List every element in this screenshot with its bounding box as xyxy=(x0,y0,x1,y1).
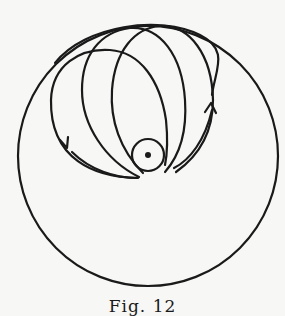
arrow-up-icon xyxy=(205,103,216,113)
orbit-path-1 xyxy=(51,50,167,178)
center-dot xyxy=(145,152,151,158)
figure-caption: Fig. 12 xyxy=(0,296,285,316)
orbit-path-lower-right xyxy=(174,110,212,168)
